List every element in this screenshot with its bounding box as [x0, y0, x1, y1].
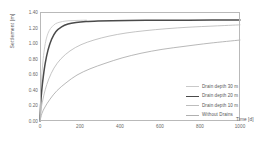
y-tick-label: 0.40	[29, 87, 38, 92]
legend-item[interactable]: Drain depth 30 m	[186, 82, 266, 91]
y-tick-label: 1.40	[29, 10, 38, 15]
y-axis-tick-labels: 0.000.200.400.600.801.001.201.40	[21, 9, 38, 121]
settlement-time-chart: Settlement [m] 0.000.200.400.600.801.001…	[0, 0, 271, 146]
x-tick-label: 800	[196, 124, 204, 129]
legend-item[interactable]: Drain depth 10 m	[186, 101, 266, 110]
y-tick-label: 0.60	[29, 72, 38, 77]
legend-item[interactable]: Without Drains	[186, 110, 266, 119]
x-axis-tick-labels: 02004006008001000	[40, 124, 240, 136]
y-tick-label: 1.00	[29, 41, 38, 46]
chart-legend: Drain depth 30 mDrain depth 20 mDrain de…	[186, 82, 266, 122]
x-tick-label: 200	[76, 124, 84, 129]
legend-label: Drain depth 20 m	[202, 91, 238, 100]
x-tick-label: 1000	[235, 124, 246, 129]
legend-swatch	[186, 105, 199, 106]
x-tick-label: 0	[39, 124, 42, 129]
x-tick-label: 400	[116, 124, 124, 129]
legend-label: Drain depth 10 m	[202, 101, 238, 110]
y-tick-label: 1.20	[29, 25, 38, 30]
legend-label: Drain depth 30 m	[202, 82, 238, 91]
y-tick-label: 0.80	[29, 56, 38, 61]
legend-swatch	[186, 115, 199, 116]
legend-item[interactable]: Drain depth 20 m	[186, 91, 266, 100]
legend-swatch	[186, 96, 199, 97]
y-tick-label: 0.20	[29, 103, 38, 108]
x-tick-label: 600	[156, 124, 164, 129]
y-tick-label: 0.00	[29, 119, 38, 124]
legend-label: Without Drains	[202, 110, 233, 119]
legend-swatch	[186, 86, 199, 87]
y-axis-title: Settlement [m]	[9, 0, 19, 71]
